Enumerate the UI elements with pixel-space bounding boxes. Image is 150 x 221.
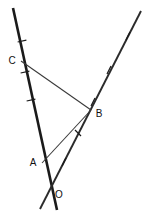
segment-C-B [21,61,91,110]
point-label-C: C [8,55,15,66]
tick-right-lower [62,158,66,166]
geometry-svg: C B A O [0,0,150,221]
point-label-O: O [55,189,63,200]
line-through-C-A-O [13,8,57,210]
point-label-A: A [30,157,37,168]
geometry-figure-canvas: C B A O [0,0,150,221]
tick-right-top [126,32,130,40]
point-label-B: B [96,108,103,119]
